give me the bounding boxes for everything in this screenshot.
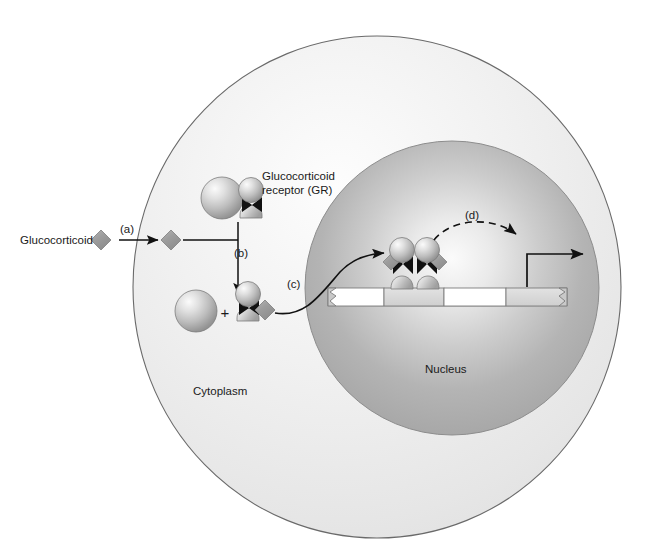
gr-label-line1: Glucocorticoid [262, 170, 335, 182]
monomer-left-sphere [390, 238, 415, 263]
free-chaperone-sphere [175, 290, 217, 332]
dna-segment-3 [444, 288, 506, 306]
label-glucocorticoid: Glucocorticoid [20, 234, 93, 246]
step-a-label: (a) [120, 223, 134, 235]
dna-segment-1 [328, 288, 384, 306]
step-c-label: (c) [287, 278, 301, 290]
gr-complex-inactive [201, 177, 264, 219]
dna-segment-4-gene [506, 288, 567, 306]
monomer-right-sphere [415, 238, 440, 263]
activated-receptor-sphere [236, 282, 261, 307]
chaperone-sphere [201, 177, 243, 219]
gr-label-line2: receptor (GR) [262, 184, 332, 196]
receptor-sphere [239, 178, 264, 203]
dna-segment-2-gre [384, 288, 444, 306]
figure-canvas: Glucocorticoid receptor (GR) (b) + (c) [0, 0, 672, 557]
step-b-label: (b) [234, 247, 248, 259]
step-d-label: (d) [465, 209, 479, 221]
label-nucleus: Nucleus [425, 363, 467, 375]
plus-sign: + [221, 304, 230, 321]
ligand-diamond-extracellular [91, 230, 111, 250]
pathway-diagram: Glucocorticoid receptor (GR) (b) + (c) [0, 0, 672, 557]
dna-strand [328, 288, 567, 307]
label-cytoplasm: Cytoplasm [193, 385, 247, 397]
